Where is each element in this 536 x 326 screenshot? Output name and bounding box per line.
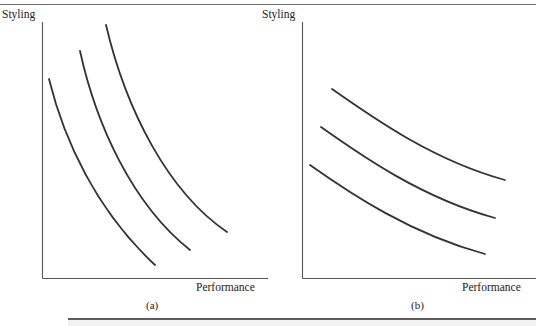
panel-b-curve-3 — [310, 165, 485, 254]
panel-a-curve-3 — [106, 25, 227, 232]
figure-page: Styling Performance (a) Styling Performa… — [0, 0, 536, 326]
footer-band — [68, 320, 536, 326]
panel-b-x-axis-label: Performance — [462, 281, 521, 294]
panel-b-caption: (b) — [411, 299, 424, 311]
panel-a-x-axis-label: Performance — [196, 281, 255, 294]
panel-a-curve-2 — [80, 51, 190, 250]
panel-b-curve-1 — [332, 89, 505, 180]
panel-a-caption: (a) — [146, 299, 158, 311]
figure-plot-area — [0, 0, 536, 326]
panel-b-curve-2 — [321, 127, 495, 218]
panel-a-curve-1 — [49, 79, 155, 265]
panel-a-y-axis-label: Styling — [2, 8, 35, 21]
panel-b-y-axis-label: Styling — [262, 8, 295, 21]
